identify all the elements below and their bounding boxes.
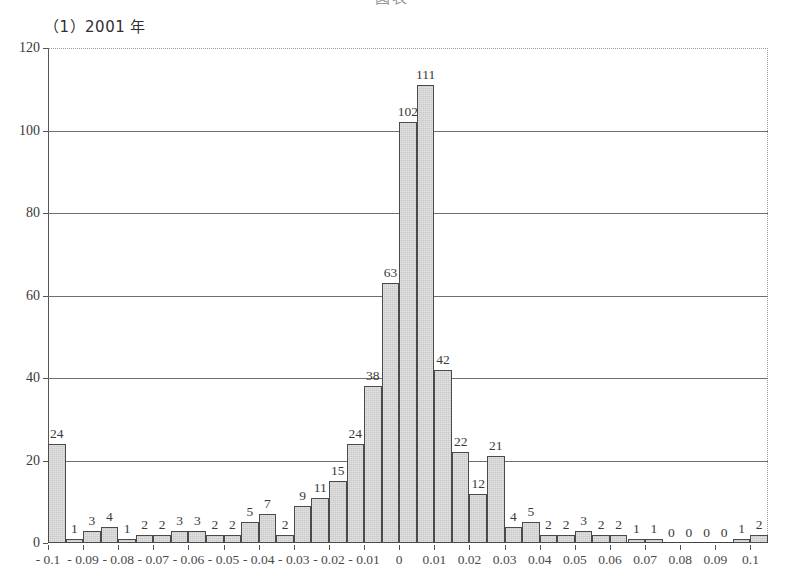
bar-value-label: 0 bbox=[703, 525, 710, 541]
x-tick-mark bbox=[399, 545, 400, 550]
bar-value-label: 0 bbox=[686, 525, 693, 541]
bar-value-label: 2 bbox=[282, 517, 289, 533]
bar-slot: 2 bbox=[592, 48, 610, 543]
bar-slot: 2 bbox=[153, 48, 171, 543]
document-header-text: 図表 bbox=[0, 0, 785, 7]
bar bbox=[540, 535, 558, 543]
bar-value-label: 2 bbox=[756, 517, 763, 533]
bar-slot: 2 bbox=[540, 48, 558, 543]
x-tick-label: 0.1 bbox=[742, 552, 759, 568]
y-tick-label: 40 bbox=[0, 370, 40, 386]
x-tick-label: 0.05 bbox=[563, 552, 587, 568]
bar-slot: 4 bbox=[505, 48, 523, 543]
document-header: 図表 bbox=[0, 0, 785, 12]
bar-slot: 5 bbox=[522, 48, 540, 543]
y-tick-label: 100 bbox=[0, 123, 40, 139]
bar bbox=[118, 539, 136, 543]
bar-value-label: 12 bbox=[471, 476, 485, 492]
bar bbox=[347, 444, 365, 543]
bar-value-label: 3 bbox=[176, 513, 183, 529]
bar-slot: 2 bbox=[557, 48, 575, 543]
x-tick-mark bbox=[188, 545, 189, 550]
x-tick-mark bbox=[469, 545, 470, 550]
x-tick-label: - 0.08 bbox=[102, 552, 134, 568]
bar-slot: 12 bbox=[469, 48, 487, 543]
bar bbox=[610, 535, 628, 543]
bar bbox=[469, 494, 487, 544]
bar-value-label: 2 bbox=[545, 517, 552, 533]
bar bbox=[294, 506, 312, 543]
bar bbox=[101, 527, 119, 544]
bar-value-label: 2 bbox=[211, 517, 218, 533]
histogram-chart: 020406080100120 241341223322572911152438… bbox=[48, 48, 768, 543]
bar bbox=[557, 535, 575, 543]
bar-slot: 24 bbox=[347, 48, 365, 543]
bar-value-label: 4 bbox=[106, 509, 113, 525]
bar-slot: 1 bbox=[645, 48, 663, 543]
bar-slot: 5 bbox=[241, 48, 259, 543]
x-tick-label: - 0.06 bbox=[173, 552, 205, 568]
bar bbox=[750, 535, 768, 543]
bar-slot: 0 bbox=[715, 48, 733, 543]
x-tick-mark bbox=[540, 545, 541, 550]
page-title: （1）2001 年 bbox=[44, 15, 146, 36]
bar-slot: 2 bbox=[224, 48, 242, 543]
x-tick-label: - 0.05 bbox=[208, 552, 240, 568]
x-tick-label: 0.01 bbox=[423, 552, 447, 568]
bar bbox=[188, 531, 206, 543]
bar bbox=[259, 514, 277, 543]
bar-slot: 3 bbox=[188, 48, 206, 543]
bar-value-label: 0 bbox=[668, 525, 675, 541]
bar-value-label: 2 bbox=[615, 517, 622, 533]
x-tick-mark bbox=[153, 545, 154, 550]
bar-value-label: 0 bbox=[721, 525, 728, 541]
bar bbox=[399, 122, 417, 543]
bar bbox=[48, 444, 66, 543]
bar-value-label: 63 bbox=[384, 265, 398, 281]
bar-slot: 11 bbox=[311, 48, 329, 543]
bar-slot: 2 bbox=[750, 48, 768, 543]
bar-value-label: 111 bbox=[416, 67, 435, 83]
bar bbox=[522, 522, 540, 543]
bar bbox=[329, 481, 347, 543]
bar-value-label: 1 bbox=[124, 521, 131, 537]
x-tick-mark bbox=[48, 545, 49, 550]
bar-slot: 63 bbox=[382, 48, 400, 543]
y-axis: 020406080100120 bbox=[0, 48, 40, 543]
bar-value-label: 38 bbox=[366, 368, 380, 384]
bar bbox=[66, 539, 84, 543]
bar-value-label: 2 bbox=[563, 517, 570, 533]
bar-value-label: 2 bbox=[141, 517, 148, 533]
x-tick-mark bbox=[224, 545, 225, 550]
bar-value-label: 3 bbox=[194, 513, 201, 529]
x-tick-label: 0 bbox=[396, 552, 403, 568]
bar bbox=[206, 535, 224, 543]
bar-slot: 42 bbox=[434, 48, 452, 543]
bar-value-label: 1 bbox=[738, 521, 745, 537]
bar bbox=[382, 283, 400, 543]
bar bbox=[417, 85, 435, 543]
bar-value-label: 24 bbox=[50, 426, 64, 442]
x-tick-label: 0.03 bbox=[493, 552, 517, 568]
bar-slot: 0 bbox=[698, 48, 716, 543]
bar-slot: 2 bbox=[276, 48, 294, 543]
bar-value-label: 4 bbox=[510, 509, 517, 525]
bar bbox=[645, 539, 663, 543]
bar-value-label: 3 bbox=[89, 513, 96, 529]
x-tick-label: 0.04 bbox=[528, 552, 552, 568]
bar bbox=[452, 452, 470, 543]
bar bbox=[733, 539, 751, 543]
x-tick-label: 0.02 bbox=[458, 552, 482, 568]
x-tick-mark bbox=[329, 545, 330, 550]
bar-value-label: 5 bbox=[247, 504, 254, 520]
bar-slot: 2 bbox=[206, 48, 224, 543]
bar-slot: 1 bbox=[628, 48, 646, 543]
bar-slot: 1 bbox=[118, 48, 136, 543]
bar bbox=[136, 535, 154, 543]
bar-slot: 3 bbox=[575, 48, 593, 543]
bar bbox=[364, 386, 382, 543]
bar bbox=[224, 535, 242, 543]
x-tick-mark bbox=[294, 545, 295, 550]
x-tick-mark bbox=[575, 545, 576, 550]
bar-value-label: 11 bbox=[314, 480, 327, 496]
